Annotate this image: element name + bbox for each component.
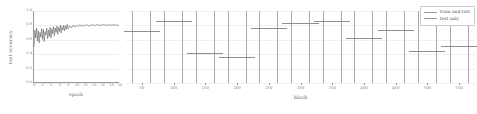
block-cell [158,11,190,83]
test-accuracy-line [34,11,119,82]
y-tick-label: 1.0 [26,9,32,13]
block-box [196,11,215,83]
line-plot-panel: test accuracy 0.00.20.40.60.81.0 0246810… [0,0,124,114]
block-x-tick-label: 250 [265,86,272,90]
block-value-marker [409,51,445,52]
figure-canvas: test accuracy 0.00.20.40.60.81.0 0246810… [0,0,477,114]
block-value-marker [251,28,287,29]
block-cell [285,11,317,83]
block-box [259,11,278,83]
block-value-marker [282,23,318,24]
x-axis-label-epoch: epoch [69,92,83,97]
block-value-marker [187,53,223,54]
block-x-tick-label: 200 [233,86,240,90]
x-axis-label-block: block [294,94,308,100]
block-value-marker [124,31,160,32]
x-tick-label: 14 [92,84,96,87]
x-tick-label: 8 [67,84,69,87]
block-x-tick-label: 50 [139,86,144,90]
block-panel-strip: 50100150200250300350400450500550 block t… [124,0,477,114]
legend-label: train and test [440,10,470,14]
block-value-marker [378,30,414,31]
legend-label: test only [440,17,459,21]
y-tick-label: 0.6 [26,38,32,42]
legend: train and test test only [420,6,475,26]
y-tick-label: 0.8 [26,24,32,28]
legend-line-icon [424,18,437,19]
y-tick-label: 0.0 [26,81,32,85]
block-box [386,11,405,83]
x-tick-label: 10 [75,84,79,87]
x-tick-label: 16 [101,84,105,87]
block-value-marker [219,57,255,58]
block-cell [126,11,158,83]
x-tick-label: 20 [118,84,122,87]
block-box [354,11,373,83]
legend-line-icon [424,12,437,13]
x-tick-label: 4 [50,84,52,87]
block-x-tick-label: 400 [360,86,367,90]
block-cell [348,11,380,83]
y-tick-label: 0.2 [26,67,32,71]
block-x-tick-label: 500 [424,86,431,90]
block-cell [189,11,221,83]
legend-item: test only [424,16,470,23]
block-x-tick-label: 300 [297,86,304,90]
block-cell [380,11,412,83]
block-box [132,11,151,83]
x-tick-label: 6 [59,84,61,87]
x-tick-label: 0 [33,84,35,87]
block-cell [316,11,348,83]
x-tick-label: 12 [83,84,87,87]
block-cell [221,11,253,83]
block-value-marker [156,21,192,22]
block-x-tick-label: 350 [329,86,336,90]
x-tick-label: 2 [42,84,44,87]
block-box [228,11,247,83]
block-x-tick-label: 150 [202,86,209,90]
line-plot-axes: 0.00.20.40.60.81.0 02468101214161820 [33,11,119,83]
block-value-marker [314,21,350,22]
block-x-tick-label: 550 [456,86,463,90]
x-tick-label: 18 [109,84,113,87]
y-tick-label: 0.4 [26,52,32,56]
block-value-marker [346,38,382,39]
y-axis-label: test accuracy [8,30,13,64]
block-cell [253,11,285,83]
block-value-marker [441,46,477,47]
block-x-tick-label: 100 [170,86,177,90]
block-x-tick-label: 450 [392,86,399,90]
